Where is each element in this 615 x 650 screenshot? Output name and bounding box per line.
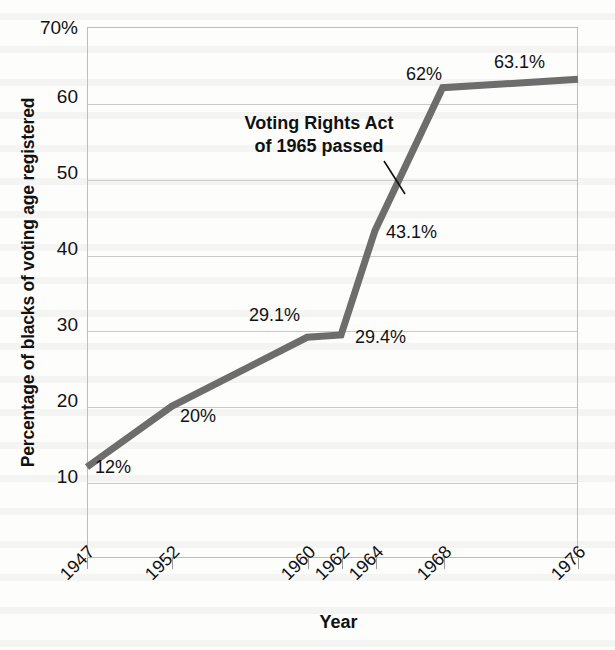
y-tick-label-50: 50 [0, 162, 78, 184]
point-label-1964: 43.1% [386, 222, 437, 243]
point-label-1960: 29.1% [249, 305, 300, 326]
point-label-1976: 63.1% [494, 52, 545, 73]
gridline-30 [88, 331, 577, 332]
y-tick-label-40: 40 [0, 238, 78, 260]
y-tick-label-60: 60 [0, 86, 78, 108]
annotation-line-2: of 1965 passed [219, 135, 419, 158]
annotation-voting-rights-act: Voting Rights Act of 1965 passed [219, 112, 419, 158]
gridline-10 [88, 483, 577, 484]
point-label-1947: 12% [95, 457, 131, 478]
point-label-1968: 62% [406, 64, 442, 85]
y-tick-label-10: 10 [0, 466, 78, 488]
x-axis-title: Year [0, 612, 615, 633]
y-axis-tick-labels: 70% 60 50 40 30 20 10 [0, 0, 82, 650]
point-label-1952: 20% [180, 406, 216, 427]
gridline-40 [88, 256, 577, 257]
point-label-1962: 29.4% [355, 327, 406, 348]
y-tick-label-20: 20 [0, 390, 78, 412]
y-tick-label-30: 30 [0, 314, 78, 336]
annotation-line-1: Voting Rights Act [219, 112, 419, 135]
chart-figure: Percentage of blacks of voting age regis… [0, 0, 615, 650]
plot-area [87, 27, 578, 558]
gridline-60 [88, 104, 577, 105]
gridline-20 [88, 407, 577, 408]
gridline-50 [88, 180, 577, 181]
x-axis-title-text: Year [319, 612, 357, 632]
y-tick-label-70: 70% [0, 17, 78, 39]
